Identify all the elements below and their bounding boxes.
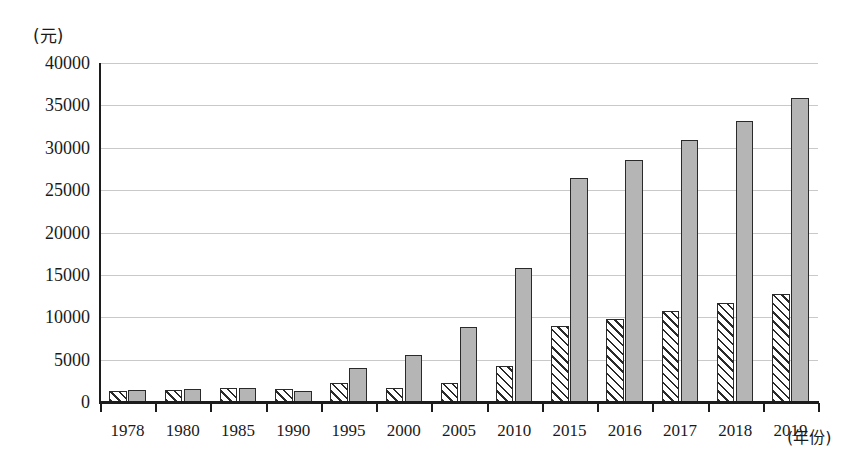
x-axis-tick-label: 1978 <box>100 421 156 441</box>
bar-2016-solid-series <box>625 160 643 402</box>
x-axis-tick-mark <box>266 403 268 412</box>
bar-1985-solid-series <box>239 388 257 402</box>
gridline <box>100 233 818 234</box>
x-axis-tick-mark <box>210 403 212 412</box>
y-axis-tick-label: 10000 <box>18 308 90 326</box>
bar-2018-hatched-series <box>717 303 735 402</box>
gridline <box>100 317 818 318</box>
x-axis-tick-mark <box>763 403 765 412</box>
x-axis-tick-mark <box>708 403 710 412</box>
bar-2017-solid-series <box>681 140 699 402</box>
bar-2015-hatched-series <box>551 326 569 402</box>
y-axis-tick-label: 0 <box>18 393 90 411</box>
bar-2017-hatched-series <box>662 311 680 402</box>
x-axis-tick-label: 2018 <box>707 421 763 441</box>
x-axis-unit-label: (年份) <box>787 424 831 448</box>
bar-2005-hatched-series <box>441 383 459 402</box>
y-axis-tick-label: 35000 <box>18 96 90 114</box>
x-axis-tick-label: 1990 <box>265 421 321 441</box>
bar-2019-hatched-series <box>772 294 790 402</box>
gridline <box>100 275 818 276</box>
x-axis-tick-label: 2017 <box>652 421 708 441</box>
x-axis-tick-label: 2005 <box>431 421 487 441</box>
x-axis-tick-label: 1995 <box>321 421 377 441</box>
x-axis-line <box>99 401 819 404</box>
x-axis-tick-mark <box>597 403 599 412</box>
x-axis-tick-mark <box>818 403 820 412</box>
x-axis-tick-mark <box>155 403 157 412</box>
x-axis-tick-label: 1985 <box>210 421 266 441</box>
bar-2010-solid-series <box>515 268 533 402</box>
chart-figure: (元) 050001000015000200002500030000350004… <box>0 0 864 458</box>
y-axis-tick-label: 5000 <box>18 351 90 369</box>
bar-2015-solid-series <box>570 178 588 402</box>
x-axis-tick-mark <box>100 403 102 412</box>
x-axis-tick-mark <box>487 403 489 412</box>
gridline <box>100 190 818 191</box>
bar-1985-hatched-series <box>220 388 238 402</box>
x-axis-tick-mark <box>376 403 378 412</box>
bar-2005-solid-series <box>460 327 478 402</box>
y-axis-line <box>99 63 101 403</box>
bar-1995-hatched-series <box>330 383 348 402</box>
plot-area <box>100 63 818 402</box>
y-axis-tick-label: 15000 <box>18 266 90 284</box>
bar-2016-hatched-series <box>606 319 624 402</box>
y-axis-tick-label: 40000 <box>18 54 90 72</box>
x-axis-tick-label: 1980 <box>155 421 211 441</box>
x-axis-tick-mark <box>652 403 654 412</box>
x-axis-tick-label: 2015 <box>541 421 597 441</box>
bar-2010-hatched-series <box>496 366 514 402</box>
bar-2000-hatched-series <box>386 388 404 402</box>
x-axis-tick-mark <box>431 403 433 412</box>
gridline <box>100 63 818 64</box>
x-axis-tick-label: 2016 <box>597 421 653 441</box>
bar-2019-solid-series <box>791 98 809 402</box>
y-axis-tick-label: 20000 <box>18 224 90 242</box>
bar-2018-solid-series <box>736 121 754 402</box>
x-axis-tick-label: 2010 <box>486 421 542 441</box>
x-axis-tick-mark <box>542 403 544 412</box>
bar-1995-solid-series <box>349 368 367 402</box>
bar-2000-solid-series <box>405 355 423 402</box>
x-axis-tick-mark <box>321 403 323 412</box>
y-axis-unit-label: (元) <box>33 22 63 47</box>
gridline <box>100 148 818 149</box>
y-axis-tick-label: 25000 <box>18 181 90 199</box>
y-axis-tick-label: 30000 <box>18 139 90 157</box>
x-axis-tick-label: 2000 <box>376 421 432 441</box>
gridline <box>100 105 818 106</box>
